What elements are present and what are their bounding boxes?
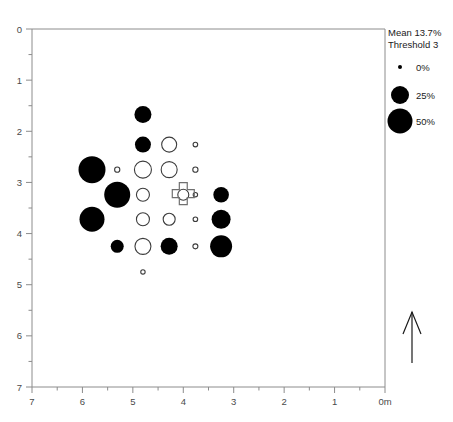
plot-border [32,29,385,387]
data-bubble-open [115,167,120,172]
x-tick-label: 2 [281,396,286,407]
y-tick-label: 2 [17,126,22,137]
data-bubble-open [134,161,151,178]
data-bubble-open [136,213,149,226]
y-tick-label: 7 [17,382,22,393]
survey-scatter-plot: 76543210m01234567 Mean 13.7%Threshold 30… [0,0,453,422]
north-arrow [403,312,421,363]
legend-symbol [398,65,402,69]
y-tick-label: 4 [17,228,22,239]
data-bubble-open [161,162,177,178]
y-tick-label: 0 [17,24,22,35]
legend-entry-label: 25% [416,90,436,101]
data-bubble-filled [79,156,106,183]
figure-canvas: 76543210m01234567 Mean 13.7%Threshold 30… [0,0,453,422]
data-bubble-open [193,244,198,249]
x-tick-label: 3 [231,396,236,407]
data-bubble-filled [135,137,151,153]
x-tick-label: 0m [378,396,391,407]
data-bubble-filled [210,235,232,257]
axis-tick-labels: 76543210m01234567 [17,24,392,408]
y-tick-label: 5 [17,279,22,290]
x-tick-label: 7 [29,396,34,407]
data-points [79,106,233,274]
data-bubble-open [193,217,198,222]
data-bubble-filled [80,207,105,232]
plot-frame [32,29,385,387]
legend-entry-label: 0% [416,62,430,73]
data-bubble-filled [212,210,231,229]
data-bubble-open [163,213,175,225]
legend-symbol [388,109,413,134]
x-tick-label: 6 [80,396,85,407]
data-bubble-filled [104,182,130,208]
data-bubble-open [162,137,177,152]
x-tick-label: 5 [130,396,135,407]
legend-symbol [391,86,409,104]
axis-ticks [26,29,385,393]
x-tick-label: 1 [332,396,337,407]
data-bubble-open [193,167,198,172]
data-bubble-filled [111,240,124,253]
legend-mean-label: Mean 13.7% [388,27,442,38]
legend: Mean 13.7%Threshold 30%25%50% [388,27,442,134]
data-bubble-open [136,188,149,201]
y-tick-label: 6 [17,330,22,341]
data-bubble-filled [161,238,178,255]
data-bubble-open [193,142,198,147]
data-bubble-open [135,238,151,254]
data-bubble-filled [134,106,151,123]
legend-entry-label: 50% [416,116,436,127]
y-tick-label: 3 [17,177,22,188]
legend-threshold-label: Threshold 3 [388,39,438,50]
data-bubble-open [141,270,145,274]
x-tick-label: 4 [181,396,186,407]
data-bubble-filled [213,187,229,203]
y-tick-label: 1 [17,75,22,86]
